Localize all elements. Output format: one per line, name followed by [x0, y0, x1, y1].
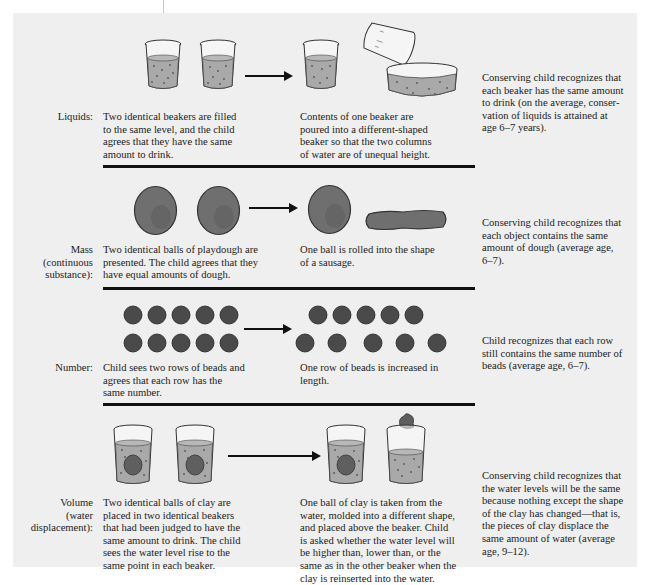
arrow-icon — [249, 207, 290, 209]
dough-ball-icon — [307, 184, 352, 235]
number-before-text: Child sees two rows of beads and agrees … — [103, 362, 273, 400]
dough-ball-icon — [133, 185, 178, 236]
number-after-text: One row of beads is increased in length. — [300, 362, 470, 387]
beaker-icon — [142, 38, 184, 92]
dough-ball-icon — [196, 185, 241, 236]
row-label-mass: Mass (continuous substance): — [20, 244, 93, 282]
row-divider — [103, 165, 475, 168]
spread-bead-rows-icon — [296, 305, 456, 357]
volume-outcome-text: Conserving child recognizes that the wat… — [482, 470, 642, 558]
row-divider — [103, 287, 475, 290]
mass-outcome-text: Conserving child recognizes that each ob… — [482, 217, 642, 267]
dough-sausage-icon — [363, 209, 449, 231]
liquids-before-text: Two identical beakers are filled to the … — [103, 111, 273, 161]
bead-rows-icon — [124, 305, 240, 357]
wide-dish-icon — [385, 62, 459, 100]
beaker-clay-above-icon — [384, 412, 428, 487]
row-label-volume: Volume (water displacement): — [14, 497, 93, 535]
beaker-with-clay-icon — [173, 423, 217, 487]
beaker-with-clay-icon — [111, 423, 155, 487]
row-label-number: Number: — [30, 362, 93, 375]
row-divider — [103, 403, 475, 406]
mass-after-text: One ball is rolled into the shape of a s… — [300, 244, 470, 269]
number-outcome-text: Child recognizes that each row still con… — [482, 335, 642, 373]
beaker-icon — [300, 38, 342, 92]
beaker-with-clay-icon — [324, 423, 368, 487]
row-label-liquids: Liquids: — [30, 111, 93, 124]
arrow-icon — [245, 75, 285, 77]
mass-before-text: Two identical balls of playdough are pre… — [103, 244, 283, 282]
arrow-icon — [228, 455, 313, 457]
volume-after-text: One ball of clay is taken from the water… — [300, 497, 480, 585]
page-edge-line — [163, 0, 164, 13]
beaker-icon — [197, 38, 239, 92]
liquids-outcome-text: Conserving child recognizes that each be… — [482, 72, 642, 135]
volume-before-text: Two identical balls of clay are placed i… — [103, 497, 283, 573]
arrow-icon — [244, 328, 284, 330]
liquids-after-text: Contents of one beaker are poured into a… — [300, 111, 470, 161]
